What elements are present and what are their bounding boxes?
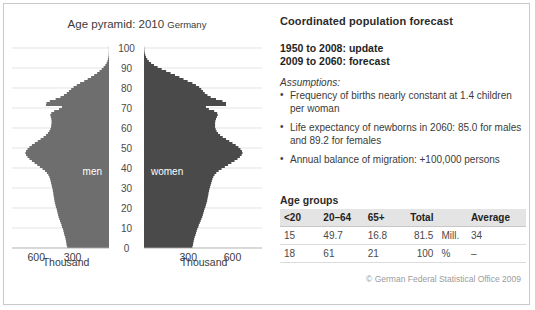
assumptions-list: Frequency of births nearly constant at 1… xyxy=(280,90,528,174)
unit-label-right: Thousand xyxy=(181,256,228,268)
pyramid-men-silhouette xyxy=(25,46,109,248)
table-col-header: Total xyxy=(398,209,437,227)
table-cell: 18 xyxy=(280,245,319,263)
table-col-header: 65+ xyxy=(364,209,398,227)
table-cell: 15 xyxy=(280,227,319,245)
forecast-heading: Coordinated population forecast xyxy=(280,15,453,27)
age-pyramid-panel: Age pyramid: 2010 Germany 01020304050607… xyxy=(4,4,270,292)
period-update: 1950 to 2008: update xyxy=(280,42,390,55)
pyramid-title: Age pyramid: 2010 Germany xyxy=(4,18,270,30)
table-cell: % xyxy=(437,245,467,263)
table-row: 186121100%– xyxy=(280,245,526,263)
pyramid-title-country: Germany xyxy=(167,19,206,30)
age-groups-table: <2020–6465+TotalAverage 1549.716.881.5Mi… xyxy=(280,209,526,263)
age-tick-label: 20 xyxy=(121,203,133,214)
table-cell: 21 xyxy=(364,245,398,263)
table-cell: 49.7 xyxy=(319,227,363,245)
population-pyramid-chart: 0102030405060708090100 600300300600 men … xyxy=(4,34,270,284)
table-cell: 16.8 xyxy=(364,227,398,245)
table-cell: – xyxy=(467,245,526,263)
table-row: 1549.716.881.5Mill.34 xyxy=(280,227,526,245)
age-tick-label: 90 xyxy=(121,63,133,74)
age-axis: 0102030405060708090100 xyxy=(109,40,144,256)
assumptions-label: Assumptions: xyxy=(280,77,340,88)
forecast-periods: 1950 to 2008: update 2009 to 2060: forec… xyxy=(280,42,390,68)
age-tick-label: 100 xyxy=(118,43,135,54)
age-tick-label: 50 xyxy=(121,143,133,154)
age-tick-label: 40 xyxy=(121,163,133,174)
pyramid-women-silhouette xyxy=(144,46,243,248)
assumption-item: Annual balance of migration: +100,000 pe… xyxy=(280,154,528,167)
age-tick-label: 60 xyxy=(121,123,133,134)
table-cell: Mill. xyxy=(437,227,467,245)
pyramid-title-main: Age pyramid: 2010 xyxy=(68,18,165,30)
table-header-row: <2020–6465+TotalAverage xyxy=(280,209,526,227)
age-tick-label: 10 xyxy=(121,223,133,234)
series-label-women: women xyxy=(150,166,183,177)
unit-label-left: Thousand xyxy=(43,256,90,268)
infographic-frame: Age pyramid: 2010 Germany 01020304050607… xyxy=(3,3,530,305)
period-forecast: 2009 to 2060: forecast xyxy=(280,55,390,68)
age-tick-label: 0 xyxy=(124,243,130,254)
forecast-panel: Coordinated population forecast 1950 to … xyxy=(272,4,531,292)
table-col-header: 20–64 xyxy=(319,209,363,227)
table-body: 1549.716.881.5Mill.34186121100%– xyxy=(280,227,526,263)
men-bars xyxy=(25,46,109,248)
assumption-item: Frequency of births nearly constant at 1… xyxy=(280,90,528,115)
copyright-notice: © German Federal Statistical Office 2009 xyxy=(366,274,521,284)
age-tick-label: 70 xyxy=(121,103,133,114)
table-cell: 61 xyxy=(319,245,363,263)
table-col-header: <20 xyxy=(280,209,319,227)
table-cell: 81.5 xyxy=(398,227,437,245)
table-col-header xyxy=(437,209,467,227)
age-tick-label: 80 xyxy=(121,83,133,94)
table-col-header: Average xyxy=(467,209,526,227)
age-groups-caption: Age groups xyxy=(280,194,338,206)
series-label-men: men xyxy=(83,166,102,177)
women-bars xyxy=(144,46,243,248)
table-cell: 34 xyxy=(467,227,526,245)
age-tick-label: 30 xyxy=(121,183,133,194)
table-cell: 100 xyxy=(398,245,437,263)
assumption-item: Life expectancy of newborns in 2060: 85.… xyxy=(280,122,528,147)
